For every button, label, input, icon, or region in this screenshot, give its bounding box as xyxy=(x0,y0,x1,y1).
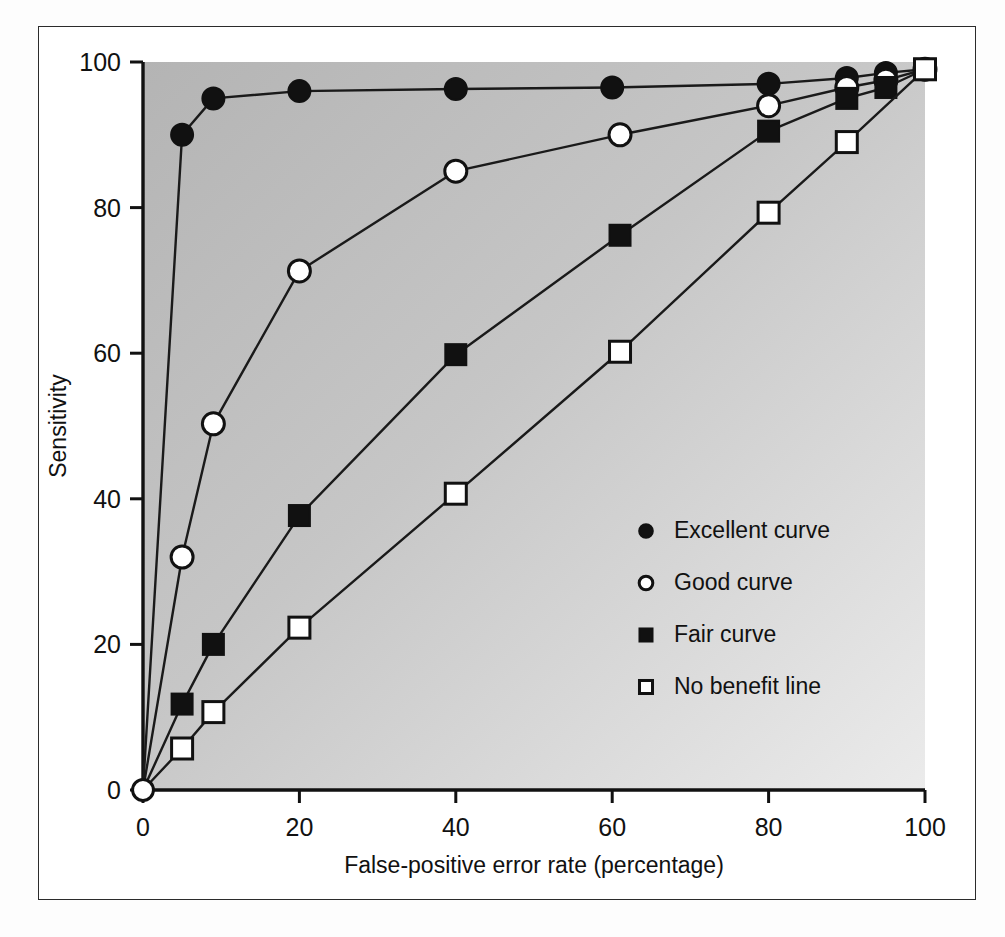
data-point-filled-circle xyxy=(202,87,224,109)
x-axis-tick-labels: 020406080100 xyxy=(136,813,946,841)
y-tick-label: 80 xyxy=(93,194,121,222)
data-point-filled-circle xyxy=(639,524,653,538)
y-axis-ticks xyxy=(130,62,143,790)
data-point-filled-square xyxy=(172,694,193,715)
data-point-open-circle xyxy=(202,413,224,435)
x-tick-label: 100 xyxy=(904,813,946,841)
x-axis-ticks xyxy=(143,790,925,803)
legend-item-label: No benefit line xyxy=(674,673,821,699)
data-point-open-circle xyxy=(445,160,467,182)
data-point-open-circle xyxy=(758,95,780,117)
data-point-filled-square xyxy=(203,634,224,655)
data-point-filled-circle xyxy=(445,78,467,100)
data-point-filled-circle xyxy=(171,124,193,146)
data-point-filled-square xyxy=(610,225,631,246)
x-axis-title: False-positive error rate (percentage) xyxy=(344,852,724,878)
x-tick-label: 40 xyxy=(442,813,470,841)
data-point-open-square xyxy=(203,702,224,723)
legend-item-label: Excellent curve xyxy=(674,517,830,543)
x-tick-label: 60 xyxy=(598,813,626,841)
figure-root: 020406080100 020406080100 False-positive… xyxy=(0,0,1005,937)
x-tick-label: 0 xyxy=(136,813,150,841)
data-point-filled-circle xyxy=(601,76,623,98)
y-tick-label: 100 xyxy=(79,48,121,76)
data-point-open-circle xyxy=(171,546,193,568)
roc-chart: 020406080100 020406080100 False-positive… xyxy=(0,0,1005,937)
data-point-open-square xyxy=(289,617,310,638)
data-point-filled-circle xyxy=(758,73,780,95)
data-point-open-circle xyxy=(639,576,653,590)
y-tick-label: 20 xyxy=(93,630,121,658)
x-tick-label: 80 xyxy=(755,813,783,841)
data-point-filled-square xyxy=(445,344,466,365)
y-axis-title: Sensitivity xyxy=(45,374,71,478)
data-point-open-square xyxy=(758,202,779,223)
y-tick-label: 40 xyxy=(93,485,121,513)
data-point-filled-square xyxy=(836,88,857,109)
data-point-open-circle xyxy=(133,780,154,801)
data-point-open-square xyxy=(445,483,466,504)
data-point-open-circle xyxy=(609,124,631,146)
data-point-filled-square xyxy=(758,121,779,142)
y-axis-tick-labels: 020406080100 xyxy=(79,48,121,804)
x-tick-label: 20 xyxy=(285,813,313,841)
data-point-filled-square xyxy=(639,628,652,641)
data-point-open-square xyxy=(172,738,193,759)
data-point-open-square xyxy=(639,680,652,693)
data-point-open-square xyxy=(836,132,857,153)
data-point-open-square xyxy=(610,341,631,362)
y-tick-label: 60 xyxy=(93,339,121,367)
legend-item-label: Fair curve xyxy=(674,621,776,647)
legend-item-label: Good curve xyxy=(674,569,793,595)
data-point-filled-circle xyxy=(288,80,310,102)
data-point-filled-square xyxy=(875,77,896,98)
data-point-filled-square xyxy=(289,505,310,526)
data-point-open-square xyxy=(915,59,936,80)
y-tick-label: 0 xyxy=(107,776,121,804)
data-point-open-circle xyxy=(288,260,310,282)
